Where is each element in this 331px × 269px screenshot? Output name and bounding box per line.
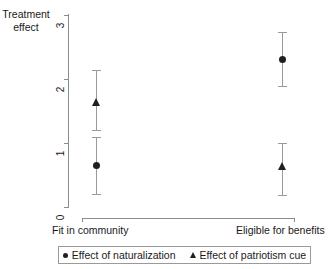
legend-label-naturalization: Effect of naturalization (72, 249, 176, 261)
y-tick-label-3: 3 (55, 15, 66, 37)
errorbar-cap-top-naturalization-eligible (278, 32, 287, 33)
y-tick-label-1-wrap: 1 (38, 137, 60, 149)
chart-figure: Treatment effect 3 2 1 0 Fit in communit… (0, 0, 331, 269)
errorbar-cap-bottom-naturalization-fit (92, 194, 101, 195)
y-tick-label-0-wrap: 0 (38, 201, 60, 213)
circle-marker-naturalization-eligible (279, 56, 286, 63)
y-axis-line (68, 14, 69, 208)
chart-legend: Effect of naturalization Effect of patri… (58, 246, 311, 264)
errorbar-cap-bottom-patriotism-eligible (278, 195, 287, 196)
x-tick-label-eligible-for-benefits: Eligible for benefits (236, 224, 325, 236)
triangle-marker-icon (190, 252, 196, 258)
x-axis-line (82, 218, 295, 219)
legend-entry-naturalization: Effect of naturalization (63, 249, 176, 261)
triangle-marker-patriotism-eligible (278, 162, 286, 170)
y-tick-label-2-wrap: 2 (38, 73, 60, 85)
x-tick-label-fit-in-community: Fit in community (52, 224, 128, 236)
triangle-marker-patriotism-fit (92, 98, 100, 106)
errorbar-cap-top-patriotism-fit (92, 70, 101, 71)
circle-marker-icon (63, 253, 68, 258)
errorbar-cap-top-naturalization-fit (92, 137, 101, 138)
y-tick-label-3-wrap: 3 (38, 9, 60, 21)
circle-marker-naturalization-fit (93, 162, 100, 169)
legend-label-patriotism: Effect of patriotism cue (200, 249, 307, 261)
errorbar-cap-bottom-naturalization-eligible (278, 86, 287, 87)
x-tick-mark-fit-in-community (82, 218, 83, 222)
y-tick-label-1: 1 (55, 143, 66, 165)
y-tick-label-2: 2 (55, 79, 66, 101)
x-tick-mark-eligible-for-benefits (294, 218, 295, 222)
legend-entry-patriotism: Effect of patriotism cue (190, 249, 307, 261)
errorbar-cap-bottom-patriotism-fit (92, 130, 101, 131)
errorbar-cap-top-patriotism-eligible (278, 143, 287, 144)
